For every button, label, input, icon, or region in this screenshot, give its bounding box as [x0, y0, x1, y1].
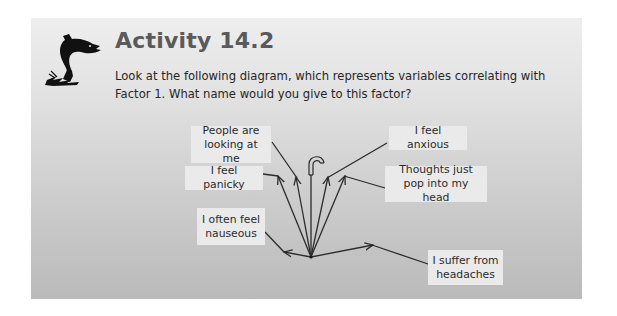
umbrella-handle-icon: [309, 157, 324, 175]
activity-panel: Activity 14.2 Look at the following diag…: [31, 18, 582, 299]
variable-label-headaches: I suffer from headaches: [428, 250, 503, 285]
rib-headaches: [311, 245, 373, 257]
rib-people: [296, 177, 311, 257]
rib-thoughts: [311, 176, 345, 257]
variable-label-people: People are looking at me: [191, 126, 271, 163]
variable-label-panicky: I feel panicky: [185, 166, 263, 190]
rib-nauseous: [284, 252, 311, 257]
variable-label-anxious: I feel anxious: [389, 126, 467, 150]
rib-anxious: [311, 177, 328, 257]
variable-label-thoughts: Thoughts just pop into my head: [385, 166, 487, 202]
variable-label-nauseous: I often feel nauseous: [197, 208, 265, 245]
rib-panicky: [278, 176, 311, 257]
